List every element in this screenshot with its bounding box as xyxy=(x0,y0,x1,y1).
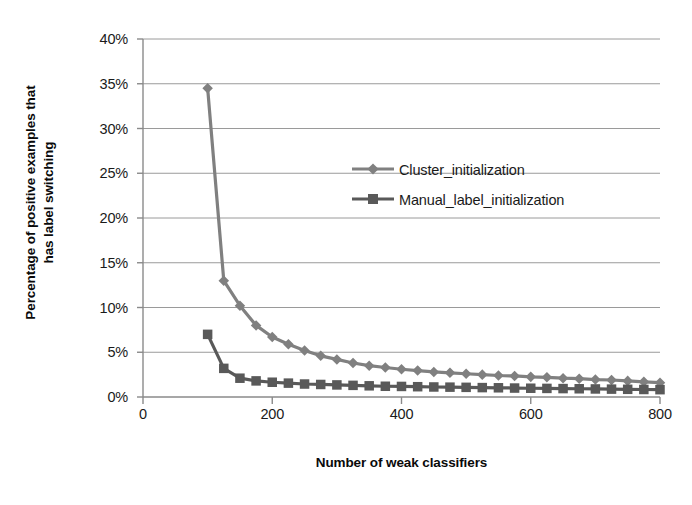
data-point-marker xyxy=(542,384,552,394)
data-point-marker xyxy=(574,384,584,394)
chart-legend: Cluster_initializationManual_label_initi… xyxy=(352,162,564,208)
data-point-marker xyxy=(364,360,375,371)
y-axis-tick-marks xyxy=(137,39,143,397)
data-point-marker xyxy=(203,330,213,340)
data-point-marker xyxy=(332,354,343,365)
data-point-marker xyxy=(268,377,278,387)
legend-label: Manual_label_initialization xyxy=(399,192,564,208)
data-point-marker xyxy=(494,383,504,393)
data-point-marker xyxy=(478,383,488,393)
data-point-marker xyxy=(558,373,569,384)
data-point-marker xyxy=(332,380,342,390)
data-point-marker xyxy=(510,383,520,393)
data-point-marker xyxy=(590,374,601,385)
data-point-marker xyxy=(396,364,407,375)
data-point-marker xyxy=(461,383,471,393)
data-point-marker xyxy=(445,382,455,392)
data-point-marker xyxy=(542,372,553,383)
data-point-marker xyxy=(412,365,423,376)
data-point-marker xyxy=(202,83,213,94)
legend-item[interactable]: Cluster_initialization xyxy=(352,162,525,178)
data-point-marker xyxy=(368,194,378,204)
data-point-marker xyxy=(235,373,245,383)
data-point-marker xyxy=(477,369,488,380)
data-point-marker xyxy=(429,367,440,378)
data-point-marker xyxy=(316,380,326,390)
data-point-marker xyxy=(283,339,294,350)
data-point-marker xyxy=(526,383,536,393)
data-point-marker xyxy=(525,372,536,383)
data-point-marker xyxy=(300,379,310,389)
data-point-marker xyxy=(558,384,568,394)
data-point-marker xyxy=(606,375,617,386)
data-series-layer xyxy=(202,83,665,394)
data-point-marker xyxy=(461,368,472,379)
data-point-marker xyxy=(381,382,391,392)
data-point-marker xyxy=(397,382,407,392)
data-point-marker xyxy=(284,378,294,388)
data-point-marker xyxy=(413,382,423,392)
data-point-marker xyxy=(574,373,585,384)
data-point-marker xyxy=(429,382,439,392)
legend-item[interactable]: Manual_label_initialization xyxy=(352,192,564,208)
data-point-marker xyxy=(364,381,374,391)
data-point-marker xyxy=(623,385,633,395)
data-point-marker xyxy=(655,385,665,395)
data-point-marker xyxy=(348,381,358,391)
data-point-marker xyxy=(445,368,456,379)
x-axis-tick-marks xyxy=(143,397,660,404)
data-point-marker xyxy=(348,358,359,369)
data-point-marker xyxy=(493,370,504,381)
data-point-marker xyxy=(509,371,520,382)
data-point-marker xyxy=(219,364,229,374)
data-point-marker xyxy=(607,384,617,394)
plot-area: Cluster_initializationManual_label_initi… xyxy=(0,0,692,505)
data-point-marker xyxy=(591,384,601,394)
chart-figure: Percentage of positive examples that has… xyxy=(0,0,692,505)
data-point-marker xyxy=(639,385,649,395)
data-point-marker xyxy=(299,345,310,356)
data-point-marker xyxy=(251,376,261,386)
data-point-marker xyxy=(380,362,391,373)
legend-label: Cluster_initialization xyxy=(399,162,525,178)
